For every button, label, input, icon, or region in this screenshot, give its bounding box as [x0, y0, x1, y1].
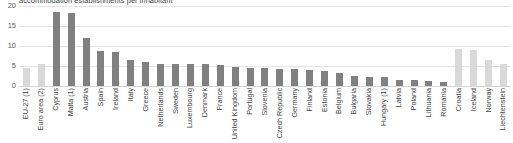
bar[interactable] [291, 69, 298, 86]
x-tick-label: Ireland [112, 88, 119, 110]
bar[interactable] [366, 77, 373, 86]
x-tick-label: Hungary (1) [381, 88, 388, 126]
bar-slot [108, 6, 123, 86]
x-tick-label: Norway [485, 88, 492, 112]
bar[interactable] [425, 81, 432, 86]
bar-slot [421, 6, 436, 86]
bar[interactable] [247, 68, 254, 86]
bar-slot [228, 6, 243, 86]
bar[interactable] [38, 64, 45, 86]
x-tick-label: Cyprus [53, 88, 60, 111]
x-label-slot: Bulgaria [347, 87, 362, 143]
bar[interactable] [172, 64, 179, 86]
bar-slot [258, 6, 273, 86]
x-tick-label: Spain [97, 88, 104, 106]
x-tick-label: Euro area (2) [38, 88, 45, 130]
bar-slot [317, 6, 332, 86]
x-tick-label: Finland [306, 88, 313, 112]
x-label-slot: Spain [94, 87, 109, 143]
x-label-slot: Germany [287, 87, 302, 143]
bar[interactable] [157, 64, 164, 86]
bar[interactable] [440, 82, 447, 86]
bar-slot [34, 6, 49, 86]
bar[interactable] [68, 13, 75, 86]
x-tick-label: Netherlands [157, 88, 164, 127]
bar[interactable] [321, 71, 328, 86]
bar[interactable] [23, 68, 30, 86]
bar[interactable] [276, 69, 283, 86]
bar-slot [123, 6, 138, 86]
bar[interactable] [53, 12, 60, 86]
bar[interactable] [306, 70, 313, 86]
x-label-slot: Lithuania [421, 87, 436, 143]
bar[interactable] [142, 62, 149, 86]
x-label-slot: Sweden [168, 87, 183, 143]
bar[interactable] [217, 65, 224, 86]
x-label-slot: Ireland [108, 87, 123, 143]
bar-series [19, 6, 511, 86]
x-tick-label: France [217, 88, 224, 110]
bar[interactable] [112, 52, 119, 86]
bar[interactable] [336, 73, 343, 86]
x-label-slot: Estonia [317, 87, 332, 143]
x-tick-label: Sweden [172, 88, 179, 114]
bar-slot [332, 6, 347, 86]
x-label-slot: Cyprus [49, 87, 64, 143]
y-tick-label: 10 [8, 42, 16, 50]
bar-slot [496, 6, 511, 86]
bar[interactable] [500, 64, 507, 86]
x-label-slot: United Kingdom [228, 87, 243, 143]
x-tick-label: United Kingdom [232, 88, 239, 139]
x-label-slot: Malta (1) [64, 87, 79, 143]
x-tick-label: Portugal [246, 88, 253, 115]
bar-chart: accommodation establishments per inhabit… [0, 0, 513, 143]
x-label-slot: Euro area (2) [34, 87, 49, 143]
x-tick-label: EU-27 (1) [23, 88, 30, 119]
bar[interactable] [351, 76, 358, 86]
x-label-slot: EU-27 (1) [19, 87, 34, 143]
x-label-slot: Italy [123, 87, 138, 143]
x-label-slot: Croatia [451, 87, 466, 143]
x-label-slot: Austria [79, 87, 94, 143]
bar[interactable] [97, 51, 104, 86]
x-label-slot: Luxembourg [183, 87, 198, 143]
x-tick-label: Denmark [202, 88, 209, 117]
bar[interactable] [187, 64, 194, 86]
bar-slot [168, 6, 183, 86]
bar[interactable] [470, 50, 477, 86]
x-tick-label: Slovakia [366, 88, 373, 115]
y-tick-label: 0 [12, 82, 16, 90]
bar-slot [377, 6, 392, 86]
bar-slot [213, 6, 228, 86]
bar[interactable] [202, 64, 209, 86]
bar-slot [153, 6, 168, 86]
bar[interactable] [261, 68, 268, 86]
bar[interactable] [127, 60, 134, 86]
x-label-slot: Greece [138, 87, 153, 143]
x-label-slot: France [213, 87, 228, 143]
bar[interactable] [381, 77, 388, 86]
bar-slot [243, 6, 258, 86]
bar[interactable] [455, 49, 462, 86]
bar-slot [49, 6, 64, 86]
x-axis-labels: EU-27 (1)Euro area (2)CyprusMalta (1)Aus… [19, 87, 511, 143]
bar[interactable] [232, 67, 239, 86]
x-tick-label: Belgium [336, 88, 343, 114]
bar-slot [272, 6, 287, 86]
x-tick-label: Greece [142, 88, 149, 112]
x-label-slot: Finland [302, 87, 317, 143]
x-label-slot: Latvia [392, 87, 407, 143]
bar-slot [19, 6, 34, 86]
bar-slot [79, 6, 94, 86]
bar[interactable] [83, 38, 90, 86]
x-label-slot: Czech Republic [272, 87, 287, 143]
x-tick-label: Estonia [321, 88, 328, 112]
bar-slot [481, 6, 496, 86]
x-label-slot: Hungary (1) [377, 87, 392, 143]
bar[interactable] [411, 80, 418, 86]
bar[interactable] [396, 80, 403, 86]
bar[interactable] [485, 60, 492, 86]
x-label-slot: Slovenia [258, 87, 273, 143]
x-label-slot: Iceland [466, 87, 481, 143]
bar-slot [198, 6, 213, 86]
